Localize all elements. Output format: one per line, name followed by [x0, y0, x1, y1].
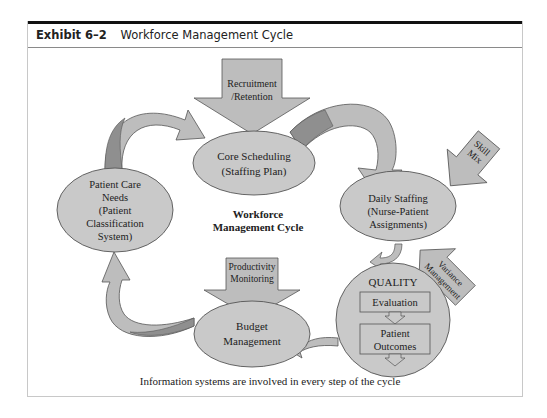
evaluation-label: Evaluation [372, 297, 418, 308]
daily-staffing-line2: (Nurse-Patient [367, 206, 428, 218]
center-title: Workforce Management Cycle [213, 208, 304, 233]
arrow-patient-to-core [105, 110, 205, 170]
patient-care-line2: Needs [102, 192, 128, 203]
budget-line1: Budget [236, 320, 268, 332]
quality-title: QUALITY [369, 276, 418, 288]
daily-staffing-line1: Daily Staffing [368, 193, 428, 204]
node-budget-management: Budget Management [194, 301, 310, 367]
budget-line2: Management [223, 335, 280, 347]
core-scheduling-line1: Core Scheduling [217, 150, 291, 162]
outcomes-line2: Outcomes [374, 341, 417, 352]
node-core-scheduling: Core Scheduling (Staffing Plan) [193, 131, 315, 195]
node-patient-care-needs: Patient Care Needs (Patient Classificati… [57, 168, 173, 252]
core-scheduling-line2: (Staffing Plan) [222, 165, 287, 178]
center-title-line2: Management Cycle [213, 221, 304, 233]
patient-care-line1: Patient Care [89, 179, 141, 190]
patient-care-line4: Classification [86, 218, 144, 229]
productivity-label-2: Monitoring [230, 274, 274, 284]
recruitment-label-2: /Retention [231, 91, 273, 102]
node-daily-staffing: Daily Staffing (Nurse-Patient Assignment… [340, 171, 456, 241]
center-title-line1: Workforce [233, 208, 284, 220]
patient-care-line3: (Patient [99, 205, 132, 217]
arrow-budget-to-patient [102, 252, 194, 336]
recruitment-input-arrow: Recruitment /Retention [194, 59, 310, 134]
footer-note: Information systems are involved in ever… [140, 375, 401, 387]
productivity-label-1: Productivity [229, 262, 276, 272]
outcomes-line1: Patient [380, 328, 409, 339]
daily-staffing-line3: Assignments) [369, 219, 427, 231]
node-quality: QUALITY Evaluation Patient Outcomes [336, 263, 450, 377]
recruitment-label-1: Recruitment [227, 78, 277, 89]
patient-care-line5: System) [98, 231, 133, 243]
workforce-cycle-diagram: Recruitment /Retention Core Scheduling (… [0, 0, 547, 418]
